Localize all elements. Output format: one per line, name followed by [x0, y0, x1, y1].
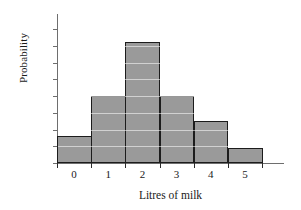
x-axis-tick-label: 0 [59, 168, 89, 181]
x-axis-tick-mark [125, 163, 126, 168]
y-axis-tick-mark [53, 146, 57, 147]
y-axis-tick-mark [53, 96, 57, 97]
y-axis-tick-mark [53, 113, 57, 114]
x-axis-tick-label: 3 [162, 168, 192, 181]
y-axis-tick-mark [53, 130, 57, 131]
x-axis-tick-mark [194, 163, 195, 168]
bar [91, 96, 126, 163]
x-axis-tick-mark [228, 163, 229, 168]
x-axis-tick-mark [262, 163, 263, 168]
y-axis-tick-mark [53, 29, 57, 30]
x-axis-title: Litres of milk [57, 189, 284, 201]
bar-series [57, 14, 284, 164]
y-axis-tick-mark [53, 63, 57, 64]
x-axis-tick-label: 2 [127, 168, 157, 181]
x-axis-tick-mark [91, 163, 92, 168]
bar [125, 42, 160, 163]
x-axis-tick-mark [160, 163, 161, 168]
plot-area: 012345 [57, 14, 284, 163]
x-axis-tick-label: 1 [93, 168, 123, 181]
bar [228, 148, 263, 163]
x-axis-tick-mark [57, 163, 58, 168]
x-axis-tick-label: 4 [196, 168, 226, 181]
y-axis-tick-mark [53, 46, 57, 47]
bar [194, 121, 229, 163]
probability-histogram: Probability 0.000.050.100.150.200.250.30… [0, 0, 301, 210]
bar [160, 96, 195, 163]
x-axis-tick-label: 5 [230, 168, 260, 181]
y-axis-title: Probability [17, 0, 29, 123]
y-axis-tick-mark [53, 79, 57, 80]
bar [57, 136, 92, 163]
